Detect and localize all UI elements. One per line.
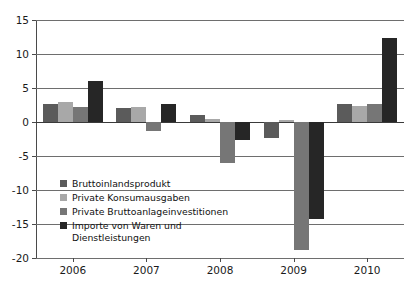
x-tick-label: 2009 <box>264 264 324 276</box>
y-tick-label: -10 <box>0 185 29 195</box>
legend-item[interactable]: Private Bruttoanlageinvestitionen <box>60 206 228 218</box>
bar <box>367 104 382 122</box>
legend-item-label: Private Konsumausgaben <box>72 192 190 204</box>
bar <box>309 122 324 219</box>
x-tick-mark <box>367 258 368 262</box>
legend-swatch-icon <box>60 180 67 187</box>
x-tick-mark <box>146 258 147 262</box>
bar <box>146 122 161 131</box>
bar <box>220 122 235 163</box>
y-tick-label: -20 <box>0 253 29 263</box>
bar <box>337 104 352 122</box>
x-tick-label: 2006 <box>43 264 103 276</box>
bar <box>131 107 146 122</box>
bar <box>190 115 205 122</box>
legend-item[interactable]: Bruttoinlandsprodukt <box>60 178 228 190</box>
y-tick-label: 5 <box>0 83 29 93</box>
bar <box>205 119 220 122</box>
bar <box>294 122 309 250</box>
x-tick-label: 2007 <box>116 264 176 276</box>
bar <box>73 107 88 122</box>
x-tick-mark <box>294 258 295 262</box>
legend-swatch-icon <box>60 208 67 215</box>
legend-item-label: Private Bruttoanlageinvestitionen <box>72 206 228 218</box>
bar <box>235 122 250 140</box>
bar <box>88 81 103 122</box>
x-tick-mark <box>73 258 74 262</box>
x-tick-label: 2008 <box>190 264 250 276</box>
bar <box>43 104 58 122</box>
legend-item[interactable]: Importe von Waren und Dienstleistungen <box>60 220 228 243</box>
legend-item-label: Importe von Waren und Dienstleistungen <box>72 220 182 243</box>
bar <box>382 38 397 122</box>
legend-item-label: Bruttoinlandsprodukt <box>72 178 171 190</box>
y-tick-label: -15 <box>0 219 29 229</box>
y-tick-label: 10 <box>0 49 29 59</box>
x-tick-mark <box>220 258 221 262</box>
legend-swatch-icon <box>60 222 67 229</box>
y-tick-label: 15 <box>0 15 29 25</box>
x-tick-label: 2010 <box>337 264 397 276</box>
bar <box>264 122 279 138</box>
bar <box>116 108 131 122</box>
bar <box>352 106 367 122</box>
bar-chart: 151050-5-10-15-20 20062007200820092010 B… <box>0 0 412 294</box>
legend-item[interactable]: Private Konsumausgaben <box>60 192 228 204</box>
bar <box>161 104 176 122</box>
y-tick-label: 0 <box>0 117 29 127</box>
legend-swatch-icon <box>60 194 67 201</box>
legend: BruttoinlandsproduktPrivate Konsumausgab… <box>60 178 228 246</box>
bar <box>279 120 294 122</box>
bar <box>58 102 73 122</box>
y-tick-label: -5 <box>0 151 29 161</box>
y-tick-mark <box>32 258 36 259</box>
